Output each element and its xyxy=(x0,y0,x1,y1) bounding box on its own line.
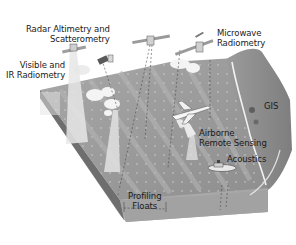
label-line: Floats xyxy=(128,202,161,212)
gis-building-icon xyxy=(249,107,255,113)
label-line: Scatterometry xyxy=(26,35,110,45)
label-profiling-floats: Profiling Floats xyxy=(128,192,161,211)
label-airborne-remote-sensing: Airborne Remote Sensing xyxy=(199,129,267,148)
satellite-center xyxy=(132,35,170,45)
label-line: Radiometry xyxy=(217,39,265,49)
label-line: IR Radiometry xyxy=(6,71,65,81)
label-microwave-radiometry: Microwave Radiometry xyxy=(217,29,265,48)
label-line: Remote Sensing xyxy=(199,139,267,149)
label-gis: GIS xyxy=(264,102,278,112)
label-visible-ir-radiometry: Visible and IR Radiometry xyxy=(6,61,65,80)
ocean-observation-diagram: Radar Altimetry and Scatterometry Visibl… xyxy=(0,0,296,245)
label-acoustics: Acoustics xyxy=(227,155,266,165)
label-radar-altimetry: Radar Altimetry and Scatterometry xyxy=(26,25,110,44)
satellite-radar-altimetry xyxy=(97,55,113,65)
satellite-microwave xyxy=(175,32,214,56)
